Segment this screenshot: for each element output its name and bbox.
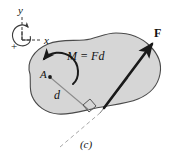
figure-container: y x + M = Fd F A d (c)	[0, 0, 172, 159]
axis-label-x: x	[44, 35, 49, 46]
point-a-marker	[48, 75, 52, 79]
moment-arm-label: d	[54, 89, 60, 101]
sign-convention-plus-label: +	[11, 41, 17, 52]
force-vector-label: F	[154, 27, 161, 39]
moment-equation-label: M = Fd	[67, 50, 104, 62]
figure-caption: (c)	[0, 139, 172, 150]
diagram-canvas	[0, 0, 172, 159]
axis-label-y: y	[18, 5, 23, 16]
point-a-label: A	[40, 69, 47, 80]
